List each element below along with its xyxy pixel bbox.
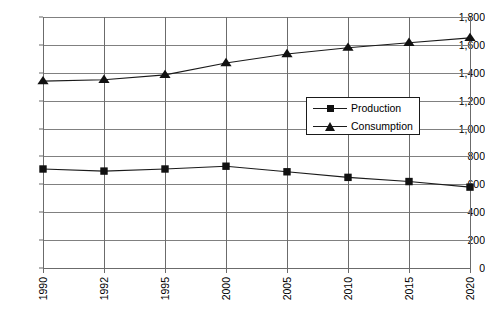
gridline-y-600 xyxy=(43,184,470,185)
chart-legend: Production Consumption xyxy=(306,97,420,135)
gridline-x-1992 xyxy=(104,17,105,268)
legend-marker-triangle-icon xyxy=(312,119,348,133)
gridline-y-200 xyxy=(43,240,470,241)
gridline-x-2010 xyxy=(348,17,349,268)
gridline-x-2015 xyxy=(409,17,410,268)
x-axis-tick-mark-2010 xyxy=(348,268,349,273)
gridline-y-1600 xyxy=(43,45,470,46)
x-axis-tick-mark-2015 xyxy=(409,268,410,273)
gridline-y-800 xyxy=(43,156,470,157)
x-axis-tick-label-2000: 2000 xyxy=(221,277,232,300)
legend-marker-square-icon xyxy=(312,101,348,115)
gridline-y-400 xyxy=(43,212,470,213)
gridline-x-1995 xyxy=(165,17,166,268)
x-axis-tick-mark-2020 xyxy=(470,268,471,273)
gridline-x-1990 xyxy=(43,17,44,268)
x-axis-tick-mark-1995 xyxy=(165,268,166,273)
gridline-y-1400 xyxy=(43,73,470,74)
x-axis-tick-label-1995: 1995 xyxy=(160,277,171,300)
x-axis-tick-mark-2000 xyxy=(226,268,227,273)
legend-label-consumption: Consumption xyxy=(348,121,413,132)
legend-label-production: Production xyxy=(348,103,401,114)
x-axis-tick-label-2020: 2020 xyxy=(465,277,476,300)
x-axis-tick-mark-1990 xyxy=(43,268,44,273)
legend-item-production: Production xyxy=(307,99,419,117)
gridline-x-2000 xyxy=(226,17,227,268)
plot-area xyxy=(43,17,470,268)
x-axis-tick-label-2010: 2010 xyxy=(343,277,354,300)
legend-item-consumption: Consumption xyxy=(307,117,419,135)
gridline-y-0 xyxy=(43,268,470,269)
x-axis-tick-label-2015: 2015 xyxy=(404,277,415,300)
x-axis-tick-label-1990: 1990 xyxy=(38,277,49,300)
gridline-x-2005 xyxy=(287,17,288,268)
x-axis-tick-mark-2005 xyxy=(287,268,288,273)
gridline-y-1800 xyxy=(43,17,470,18)
x-axis-tick-label-1992: 1992 xyxy=(99,277,110,300)
chart-container: 1,8001,6001,4001,2001,0008006004002000 1… xyxy=(0,0,485,319)
gridline-x-2020 xyxy=(470,17,471,268)
x-axis-tick-mark-1992 xyxy=(104,268,105,273)
x-axis-tick-label-2005: 2005 xyxy=(282,277,293,300)
